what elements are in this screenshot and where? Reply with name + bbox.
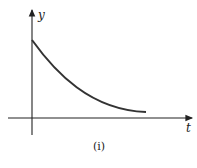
y-axis-label: y: [37, 8, 45, 22]
t-axis-label: t: [186, 121, 191, 135]
graph: y t (i): [0, 0, 197, 168]
figure-caption: (i): [93, 140, 105, 153]
decay-curve: [32, 40, 146, 112]
